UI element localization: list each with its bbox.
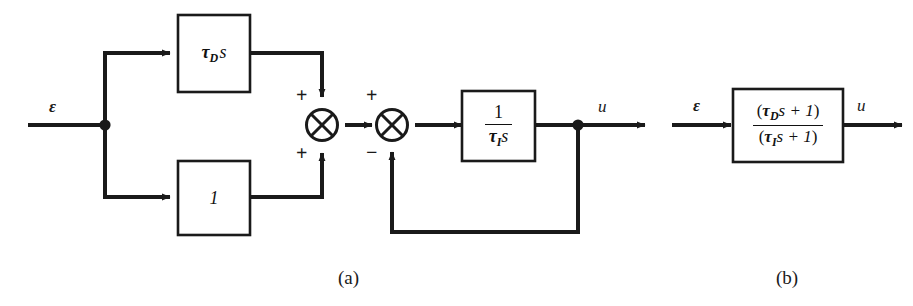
tf-den-tau: τ	[764, 127, 772, 146]
unity-block-label: 1	[178, 161, 250, 235]
output-signal-label-b: u	[857, 97, 866, 114]
tf-num-rest: s + 1	[779, 101, 814, 120]
summer-2-sign-top: +	[366, 85, 377, 105]
derivative-block-label: τD s	[178, 15, 250, 92]
tf-den-rest: s + 1	[777, 127, 812, 146]
input-signal-label-a: ε	[49, 98, 56, 115]
integrator-den-tau: τ	[489, 126, 497, 146]
summer-1-sign-bottom: +	[296, 143, 307, 163]
derivative-operator: s	[220, 42, 227, 62]
derivative-subscript: D	[209, 50, 218, 64]
tf-num-close-paren: )	[814, 101, 820, 120]
integrator-block-label: 1 τIs	[462, 91, 535, 161]
input-signal-label-b: ε	[693, 97, 700, 114]
tf-den-close-paren: )	[812, 127, 818, 146]
summer-2-sign-bottom: −	[366, 142, 377, 162]
figure-root: ε u + + + − τD s 1 1 τIs ε u (τDs + 1)	[0, 0, 913, 306]
integrator-numerator: 1	[494, 102, 503, 122]
output-branch-node-dot	[572, 119, 583, 130]
caption-a: (a)	[338, 268, 359, 287]
unity-value: 1	[210, 188, 219, 208]
transfer-function-block-label: (τDs + 1) (τIs + 1)	[733, 89, 843, 162]
input-branch-node-dot	[99, 119, 110, 130]
caption-b: (b)	[776, 268, 798, 287]
output-signal-label-a: u	[598, 98, 607, 115]
summer-1-sign-top: +	[296, 85, 307, 105]
tf-num-subscript: D	[770, 109, 779, 123]
diagram-a-group	[28, 15, 645, 235]
tf-num-tau: τ	[762, 101, 770, 120]
integrator-den-operator: s	[501, 126, 508, 146]
